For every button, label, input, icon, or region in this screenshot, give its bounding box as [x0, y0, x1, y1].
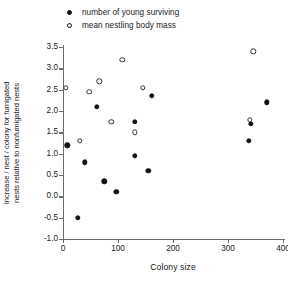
- data-point: [132, 130, 137, 135]
- data-point: [264, 100, 269, 105]
- x-tick-label: 100: [111, 245, 125, 253]
- y-tick: [59, 175, 63, 176]
- y-tick: [59, 132, 63, 133]
- data-point: [109, 119, 114, 124]
- y-tick: [59, 111, 63, 112]
- data-point: [102, 179, 107, 184]
- x-axis-title: Colony size: [63, 262, 283, 272]
- legend-item-young-surviving: number of young surviving: [62, 6, 262, 19]
- legend-label-young-surviving: number of young surviving: [76, 8, 179, 17]
- y-tick: [59, 218, 63, 219]
- x-tick: [118, 239, 119, 243]
- y-tick: [59, 196, 63, 197]
- x-tick-label: 400: [276, 245, 288, 253]
- chart-legend: number of young surviving mean nestling …: [62, 6, 262, 32]
- y-axis-title: Increase / nest / colony for fumigated n…: [2, 47, 28, 239]
- y-tick-label: 2.5: [47, 86, 58, 94]
- data-point: [75, 215, 80, 220]
- legend-item-body-mass: mean nestling body mass: [62, 19, 262, 32]
- data-point: [94, 104, 99, 109]
- data-point: [120, 57, 125, 62]
- filled-circle-icon: [62, 10, 76, 15]
- data-point: [132, 153, 137, 158]
- data-point: [149, 93, 154, 98]
- data-point: [63, 85, 68, 90]
- y-tick-label: 0.5: [47, 171, 58, 179]
- y-tick: [59, 47, 63, 48]
- data-point: [65, 142, 70, 147]
- data-point: [77, 138, 82, 143]
- y-tick-label: 3.0: [47, 64, 58, 72]
- y-tick-label: 1.0: [47, 150, 58, 158]
- y-tick-label: 3.5: [47, 43, 58, 51]
- x-tick-label: 300: [221, 245, 235, 253]
- data-point: [87, 89, 92, 94]
- y-axis-line: [63, 45, 64, 239]
- y-tick-label: 2.0: [47, 107, 58, 115]
- data-point: [97, 78, 102, 83]
- data-point: [146, 168, 151, 173]
- data-point: [251, 49, 256, 54]
- scatter-plot-figure: number of young surviving mean nestling …: [0, 0, 288, 285]
- x-tick: [63, 239, 64, 243]
- x-tick: [283, 239, 284, 243]
- data-point: [132, 119, 137, 124]
- x-tick-label: 0: [61, 245, 66, 253]
- data-point: [246, 138, 251, 143]
- y-tick-label: 1.5: [47, 128, 58, 136]
- y-tick: [59, 154, 63, 155]
- data-point: [114, 189, 119, 194]
- legend-label-body-mass: mean nestling body mass: [76, 21, 176, 30]
- y-tick: [59, 90, 63, 91]
- plot-area: -1.0-0.50.00.51.01.52.02.53.03.5 0100200…: [63, 47, 283, 239]
- x-tick-label: 200: [166, 245, 180, 253]
- x-tick: [173, 239, 174, 243]
- y-tick-label: 0.0: [47, 192, 58, 200]
- y-tick-label: -1.0: [44, 235, 58, 243]
- data-point: [140, 85, 145, 90]
- data-point: [82, 159, 87, 164]
- y-axis-title-line2: nests relative to nonfumigated nests: [12, 47, 22, 239]
- x-tick: [228, 239, 229, 243]
- data-point: [248, 121, 253, 126]
- y-tick: [59, 68, 63, 69]
- y-axis-title-line1: Increase / nest / colony for fumigated: [2, 47, 12, 239]
- y-tick-label: -0.5: [44, 214, 58, 222]
- open-circle-icon: [62, 23, 76, 28]
